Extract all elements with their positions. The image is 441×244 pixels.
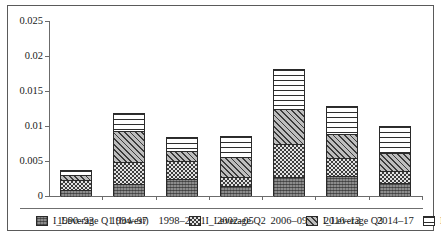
bar-segment — [380, 154, 410, 172]
bar-segment — [274, 110, 304, 145]
legend-item-q4[interactable]: I_Leverage Q4 (highest) — [423, 215, 441, 227]
stacked-bar — [220, 136, 252, 196]
bar-segment — [327, 135, 357, 160]
bar-segment — [274, 178, 304, 197]
y-tick: 0.025 — [49, 21, 50, 22]
y-tick-label: 0.005 — [19, 154, 43, 167]
bar-segment — [327, 177, 357, 197]
legend-swatch-icon — [36, 216, 48, 226]
y-tick-label: 0.025 — [19, 14, 43, 27]
bar-segment — [274, 70, 304, 110]
y-tick-label: 0 — [38, 189, 43, 202]
x-tick-mark — [369, 196, 370, 200]
bar-segment — [114, 132, 144, 163]
bar-segment — [114, 185, 144, 197]
bar-group — [379, 20, 411, 196]
bar-group — [113, 20, 145, 196]
bar-group — [220, 20, 252, 196]
bar-segment — [380, 184, 410, 197]
chart-legend: I_Leverage Q1 (lowest)I_Leverage Q2I_Lev… — [20, 208, 423, 228]
y-tick-mark — [45, 196, 50, 197]
y-tick-mark — [45, 56, 50, 57]
y-tick-mark — [45, 126, 50, 127]
legend-label: I_Leverage Q2 — [206, 215, 266, 227]
y-tick-label: 0.015 — [19, 84, 43, 97]
y-tick: 0.02 — [49, 56, 50, 57]
bar-segment — [167, 162, 197, 180]
y-tick-label: 0.01 — [25, 119, 43, 132]
y-tick-mark — [45, 91, 50, 92]
legend-item-q1[interactable]: I_Leverage Q1 (lowest) — [36, 215, 149, 227]
bar-group — [326, 20, 358, 196]
bar-segment — [114, 163, 144, 185]
bar-segment — [167, 138, 197, 153]
y-tick: 0.01 — [49, 126, 50, 127]
bar-segment — [221, 187, 251, 198]
y-tick-mark — [45, 21, 50, 22]
stacked-bar — [60, 170, 92, 196]
y-tick: 0.015 — [49, 91, 50, 92]
bar-group — [273, 20, 305, 196]
x-tick-mark — [315, 196, 316, 200]
stacked-bar — [113, 113, 145, 196]
legend-swatch-icon — [423, 216, 435, 226]
legend-label: I_Leverage Q3 — [323, 215, 383, 227]
x-tick-mark — [422, 196, 423, 200]
bar-segment — [327, 159, 357, 177]
bar-segment — [274, 145, 304, 179]
y-tick-label: 0.02 — [25, 49, 43, 62]
y-tick: 0 — [49, 196, 50, 197]
legend-swatch-icon — [306, 216, 318, 226]
bar-segment — [380, 127, 410, 154]
bar-segment — [221, 158, 251, 178]
stacked-bar — [379, 126, 411, 196]
x-tick-mark — [262, 196, 263, 200]
bar-segment — [167, 180, 197, 197]
y-axis-line — [49, 21, 50, 197]
x-tick-mark — [102, 196, 103, 200]
bar-segment — [167, 152, 197, 162]
bar-segment — [221, 137, 251, 158]
bar-segment — [114, 114, 144, 132]
bar-segment — [327, 107, 357, 134]
chart-figure: 00.0050.010.0150.020.025 1990–931994–971… — [7, 5, 434, 231]
bar-segment — [61, 191, 91, 197]
y-tick-mark — [45, 161, 50, 162]
stacked-bar — [166, 137, 198, 197]
bar-segment — [61, 181, 91, 191]
legend-item-q3[interactable]: I_Leverage Q3 — [306, 215, 383, 227]
plot-area: 00.0050.010.0150.020.025 1990–931994–971… — [49, 21, 422, 197]
bar-segment — [380, 172, 410, 184]
x-tick-mark — [156, 196, 157, 200]
stacked-bar — [273, 69, 305, 196]
legend-swatch-icon — [189, 216, 201, 226]
stacked-bar — [326, 106, 358, 196]
legend-label: I_Leverage Q1 (lowest) — [53, 215, 149, 227]
y-tick: 0.005 — [49, 161, 50, 162]
legend-item-q2[interactable]: I_Leverage Q2 — [189, 215, 266, 227]
x-tick-mark — [209, 196, 210, 200]
bar-group — [60, 20, 92, 196]
bar-segment — [221, 178, 251, 186]
bar-group — [166, 20, 198, 196]
